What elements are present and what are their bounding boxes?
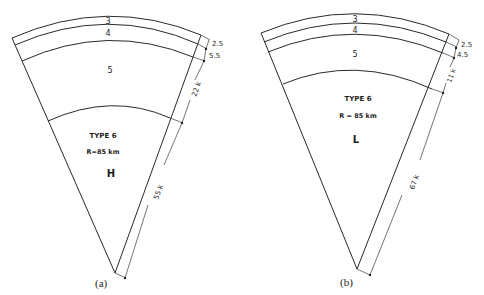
dim-label-b-4.5: 4.5 <box>457 51 468 59</box>
class-letter: H <box>107 168 115 179</box>
dim-line-a-top <box>206 40 209 49</box>
radius-label: R=85 km <box>87 148 120 156</box>
sector-a: 3 4 5 2.5 5.5 22 k 55 k TYPE 6 R=85 km H… <box>12 16 223 290</box>
layer-label-4: 4 <box>105 29 110 38</box>
sector-b-right-edge <box>357 34 449 269</box>
class-letter: L <box>353 134 360 145</box>
layer-boundary-5-lower <box>283 70 432 89</box>
type-label: TYPE 6 <box>89 132 116 140</box>
layer-boundary-5-lower <box>48 106 170 121</box>
dim-label-b-2.5: 2.5 <box>461 41 472 49</box>
sector-b: 3 4 5 2.5 4.5 11 k 67 k TYPE 6 R = 85 km… <box>261 14 472 289</box>
sector-b-left-edge <box>261 33 357 269</box>
figure-caption-b: (b) <box>340 276 353 289</box>
layer-label-5: 5 <box>107 66 112 75</box>
dim-label-a-55k: 55 k <box>152 183 165 201</box>
dim-label-a-5.5: 5.5 <box>209 52 220 60</box>
type-label: TYPE 6 <box>344 95 371 103</box>
figure-caption-a: (a) <box>95 277 108 290</box>
radius-label: R = 85 km <box>339 112 377 120</box>
dim-line-b-top <box>456 40 459 48</box>
layer-label-5: 5 <box>352 50 357 59</box>
dim-label-b-11k: 11 k <box>445 67 457 83</box>
dim-label-a-2.5: 2.5 <box>212 40 223 48</box>
layer-boundary-4-5 <box>22 40 193 61</box>
sector-a-right-edge <box>115 35 201 273</box>
dim-label-a-22k: 22 k <box>190 80 203 98</box>
layer-label-3: 3 <box>352 15 357 24</box>
dim-label-b-67k: 67 k <box>408 173 421 191</box>
layer-label-3: 3 <box>105 17 110 26</box>
crustal-sector-diagrams: 3 4 5 2.5 5.5 22 k 55 k TYPE 6 R=85 km H… <box>0 0 484 295</box>
layer-label-4: 4 <box>352 26 357 35</box>
dim-line-b-11k <box>450 58 454 67</box>
dim-line-a-22k <box>195 61 204 80</box>
dim-line-b-67k <box>420 93 443 160</box>
